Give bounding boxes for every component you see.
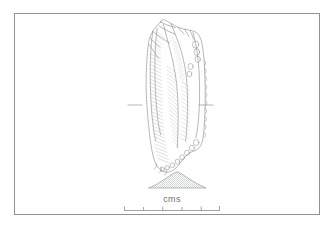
hatching-right-lobe [180,82,190,143]
scale-bar [124,206,220,211]
illustration-plate: cms [0,0,332,225]
tip-detail-2 [185,29,190,37]
upper-right-scars [187,41,200,77]
platform-detail-3 [153,32,170,44]
scale-unit-label: cms [124,194,220,204]
hatching-centre-lobe [167,66,179,148]
artifact-body [146,20,207,175]
hatching-platform [153,32,184,84]
cross-section-shape [149,172,207,188]
artifact-drawing [0,0,332,225]
cross-section-profile [149,172,207,188]
hatching-left-lobe [150,54,169,163]
lower-right-scars [160,140,199,172]
tip-detail-3 [190,30,194,39]
